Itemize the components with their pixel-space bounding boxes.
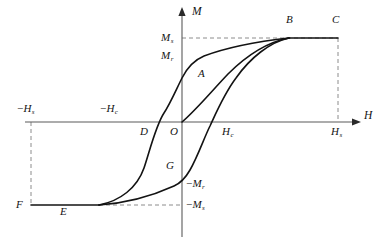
point-label-c: C xyxy=(332,14,340,25)
tick-label-ms-negative: −Ms xyxy=(186,199,205,210)
m-axis-arrowhead xyxy=(178,7,185,16)
point-label-b: B xyxy=(286,14,293,25)
point-label-o: O xyxy=(170,126,178,137)
point-label-d: D xyxy=(140,126,148,137)
h-axis-label: H xyxy=(364,110,373,122)
point-label-a: A xyxy=(198,68,205,79)
tick-label-ms-positive: Ms xyxy=(161,32,173,43)
point-label-g: G xyxy=(166,160,174,171)
tick-label-hs-positive: Hs xyxy=(331,126,342,137)
hysteresis-loop-figure: M H Ms Mr −Mr −Ms −Hs −Hc Hc Hs O A B C … xyxy=(0,0,376,243)
tick-label-mr-positive: Mr xyxy=(161,50,173,61)
tick-label-mr-negative: −Mr xyxy=(186,178,205,189)
tick-label-hc-positive: Hc xyxy=(222,126,233,137)
tick-label-hs-negative: −Hs xyxy=(17,103,35,114)
point-label-f: F xyxy=(16,199,23,210)
tick-label-hc-negative: −Hc xyxy=(100,103,118,114)
m-axis-label: M xyxy=(192,6,202,18)
point-label-e: E xyxy=(60,206,67,217)
h-axis-arrowhead xyxy=(352,118,361,125)
